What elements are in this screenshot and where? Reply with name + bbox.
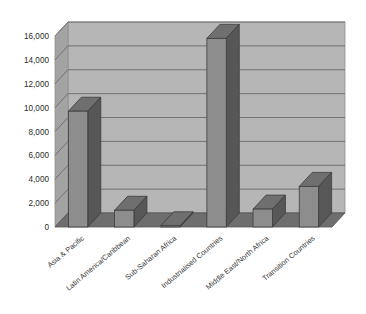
y-tick-label: 12,000 xyxy=(24,80,49,89)
bar-side-face xyxy=(88,97,101,227)
y-tick-label: 0 xyxy=(44,223,49,232)
chart-canvas: 02,0004,0006,0008,00010,00012,00014,0001… xyxy=(0,0,366,314)
y-tick-label: 2,000 xyxy=(29,199,50,208)
y-tick-label: 10,000 xyxy=(24,104,49,113)
bar-front-face xyxy=(253,209,272,227)
bar-front-face xyxy=(68,111,87,227)
y-tick-label: 8,000 xyxy=(29,128,50,137)
bar-front-face xyxy=(115,210,134,227)
y-tick-label: 16,000 xyxy=(24,32,49,41)
bar-6 xyxy=(299,172,331,227)
bar-front-face xyxy=(207,38,226,227)
bar-front-face xyxy=(161,226,180,227)
bar-front-face xyxy=(299,186,318,227)
bar-side-face xyxy=(226,24,239,227)
bar-chart: 02,0004,0006,0008,00010,00012,00014,0001… xyxy=(0,0,366,314)
bar-1 xyxy=(68,97,100,227)
y-tick-label: 6,000 xyxy=(29,151,50,160)
x-tick-label: Asia & Pacific xyxy=(45,233,86,269)
bar-4 xyxy=(207,24,239,227)
y-tick-label: 14,000 xyxy=(24,56,49,65)
y-tick-label: 4,000 xyxy=(29,175,50,184)
y-axis: 02,0004,0006,0008,00010,00012,00014,0001… xyxy=(24,32,49,232)
x-axis: Asia & PacificLatin America/CaribbeanSub… xyxy=(45,233,316,292)
